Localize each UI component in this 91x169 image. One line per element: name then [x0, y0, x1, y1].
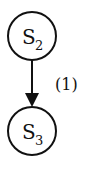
- node-label: S: [22, 25, 36, 49]
- edge-s2-s3: (1): [25, 60, 78, 107]
- node-subscript: 2: [35, 38, 43, 53]
- node-label: S: [22, 120, 36, 144]
- node-subscript: 3: [35, 133, 43, 148]
- diagram-canvas: S 2 (1) S 3: [0, 0, 91, 169]
- edge-label: (1): [55, 75, 78, 94]
- node-s2: S 2: [8, 12, 56, 60]
- node-s3: S 3: [8, 107, 56, 155]
- arrowhead-icon: [25, 93, 39, 107]
